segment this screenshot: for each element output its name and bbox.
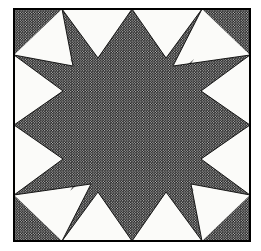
block-interior xyxy=(14,9,250,241)
quilt-block-svg xyxy=(0,0,261,251)
quilt-block-figure xyxy=(0,0,261,251)
